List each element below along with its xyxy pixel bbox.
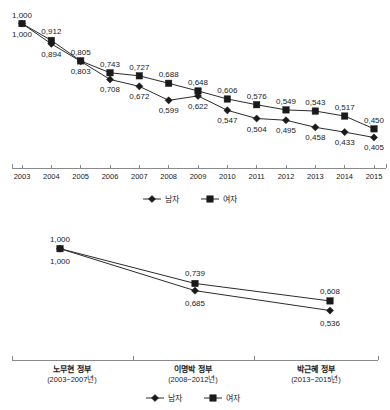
point-label-male: 0,433 <box>335 138 356 147</box>
point-label-female: 1,000 <box>12 11 33 20</box>
point-label-female: 0,608 <box>320 287 341 296</box>
top-chart-legend: 남자여자 <box>143 194 238 204</box>
point-label-female: 0,912 <box>41 27 62 36</box>
bottom-chart-series-layer: 1,0000,7390,6081,0000,6850,536 <box>50 235 341 328</box>
x-axis-label: 2005 <box>72 172 89 181</box>
top-line-chart: 1,0000,9120,8050,7430,7270,6880,6480,606… <box>0 0 390 212</box>
x-axis-label: 2007 <box>131 172 148 181</box>
data-point-square <box>341 113 347 119</box>
x-axis-category-label: 박근혜 정부 <box>297 364 335 374</box>
point-label-female: 0,543 <box>305 98 326 107</box>
point-label-male: 0,708 <box>100 85 121 94</box>
bottom-chart-ticklabels: 노무현 정부(2003~2007년)이명박 정부(2008~2012년)박근혜 … <box>47 364 341 384</box>
data-point-diamond <box>191 287 198 294</box>
data-point-diamond <box>253 115 260 122</box>
point-label-male: 0,405 <box>364 143 385 152</box>
data-point-diamond <box>326 307 333 314</box>
x-axis-category-period: (2003~2007년) <box>47 374 97 384</box>
point-label-female: 0,648 <box>188 78 209 87</box>
data-point-square <box>312 108 318 114</box>
legend-item-female: 여자 <box>204 393 241 403</box>
point-label-male: 1,000 <box>12 30 33 39</box>
data-point-diamond <box>224 107 231 114</box>
legend-item-female: 여자 <box>201 194 238 204</box>
point-label-male: 0,495 <box>276 126 297 135</box>
square-marker-icon <box>210 395 216 401</box>
x-axis-category-period: (2013~2015년) <box>291 374 341 384</box>
point-label-female: 0,727 <box>129 63 150 72</box>
data-point-diamond <box>282 117 289 124</box>
x-axis-label: 2011 <box>249 172 265 181</box>
point-label-male: 0,599 <box>159 106 180 115</box>
x-axis-label: 2013 <box>307 172 324 181</box>
legend-item-male-label: 남자 <box>165 195 180 204</box>
top-chart-series-layer: 1,0000,9120,8050,7430,7270,6880,6480,606… <box>12 11 385 153</box>
data-point-square <box>107 70 113 76</box>
data-point-diamond <box>370 134 377 141</box>
point-label-female: 0,517 <box>335 103 356 112</box>
point-label-female: 0,739 <box>185 269 206 278</box>
bottom-line-chart: 1,0000,7390,6081,0000,6850,536 노무현 정부(20… <box>0 212 390 410</box>
top-chart-axis <box>12 164 386 168</box>
square-marker-icon <box>207 196 213 202</box>
data-point-diamond <box>136 83 143 90</box>
legend-item-female-label: 여자 <box>223 194 238 204</box>
x-axis-label: 2003 <box>14 172 31 181</box>
legend-item-male: 남자 <box>146 394 183 403</box>
data-point-square <box>283 107 289 113</box>
point-label-female: 0,743 <box>100 60 121 69</box>
data-point-square <box>192 280 198 286</box>
x-axis-category-period: (2008~2012년) <box>168 374 218 384</box>
x-axis-category-label: 이명박 정부 <box>174 364 212 374</box>
point-label-male: 0,504 <box>247 125 268 134</box>
diamond-marker-icon <box>151 394 158 401</box>
point-label-female: 0,805 <box>71 48 92 57</box>
top-chart-ticklabels: 2003200420052006200720082009201020112012… <box>14 172 383 181</box>
data-point-square <box>165 80 171 86</box>
data-point-square <box>327 298 333 304</box>
data-point-square <box>136 73 142 79</box>
point-label-male: 0,803 <box>71 67 92 76</box>
top-chart-svg: 1,0000,9120,8050,7430,7270,6880,6480,606… <box>0 0 390 212</box>
x-axis-label: 2008 <box>160 172 177 181</box>
point-label-male: 0,536 <box>320 319 341 328</box>
bottom-chart-legend: 남자여자 <box>146 393 241 403</box>
point-label-male: 1,000 <box>50 257 71 266</box>
data-point-diamond <box>106 76 113 83</box>
legend-item-female-label: 여자 <box>226 393 241 403</box>
point-label-male: 0,672 <box>129 92 150 101</box>
point-label-female: 0,450 <box>364 116 385 125</box>
x-axis-category-label: 노무현 정부 <box>53 364 91 374</box>
point-label-female: 1,000 <box>50 235 71 244</box>
diamond-marker-icon <box>148 195 155 202</box>
x-axis-label: 2015 <box>366 172 383 181</box>
data-point-square <box>253 102 259 108</box>
x-axis-label: 2009 <box>190 172 207 181</box>
point-label-male: 0,547 <box>217 116 238 125</box>
data-point-square <box>371 126 377 132</box>
point-label-female: 0,576 <box>247 92 268 101</box>
point-label-female: 0,688 <box>159 70 180 79</box>
x-axis-label: 2004 <box>43 172 60 181</box>
point-label-male: 0,458 <box>305 133 326 142</box>
bottom-chart-axis <box>12 356 378 360</box>
x-axis-label: 2006 <box>102 172 119 181</box>
point-label-female: 0,549 <box>276 97 297 106</box>
legend-item-male: 남자 <box>143 195 180 204</box>
data-point-square <box>224 96 230 102</box>
point-label-male: 0,685 <box>185 299 206 308</box>
data-point-diamond <box>341 129 348 136</box>
x-axis-label: 2012 <box>278 172 295 181</box>
point-label-male: 0,622 <box>188 102 209 111</box>
x-axis-label: 2010 <box>219 172 236 181</box>
data-point-diamond <box>312 124 319 131</box>
point-label-female: 0,606 <box>217 86 238 95</box>
data-point-diamond <box>165 97 172 104</box>
bottom-chart-svg: 1,0000,7390,6081,0000,6850,536 노무현 정부(20… <box>0 212 390 410</box>
legend-item-male-label: 남자 <box>168 394 183 403</box>
point-label-male: 0,894 <box>41 50 62 59</box>
x-axis-label: 2014 <box>336 172 353 181</box>
